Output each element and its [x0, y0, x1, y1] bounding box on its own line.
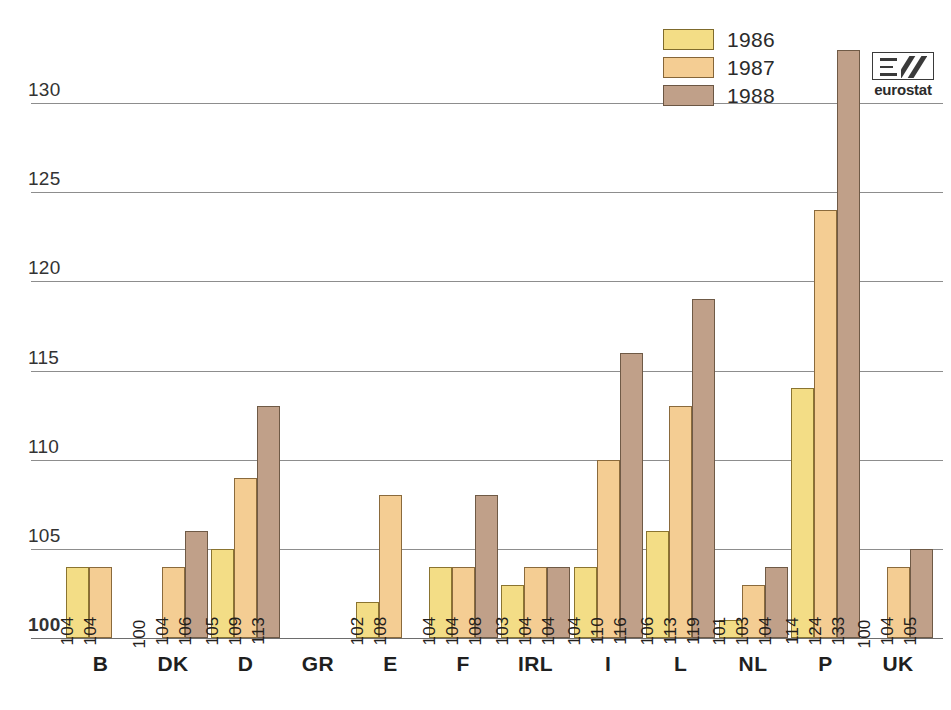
legend-label-1986: 1986 — [727, 28, 775, 52]
bar-I-1988[interactable]: 116 — [620, 353, 643, 638]
legend-label-1988: 1988 — [727, 84, 775, 108]
bar-P-1988[interactable]: 133 — [837, 50, 860, 639]
bar-value-label: 110 — [588, 617, 608, 645]
x-axis-label-UK: UK — [850, 652, 947, 676]
bar-value-label: 113 — [249, 617, 269, 645]
bar-value-label: 124 — [806, 617, 826, 646]
bar-group-P: 114124133 — [791, 50, 860, 639]
bar-value-label: 104 — [539, 617, 559, 646]
bar-group-B: 104104 — [66, 567, 112, 638]
bar-value-label: 103 — [733, 617, 753, 646]
legend-swatch-1986 — [663, 29, 714, 50]
bar-value-label: 133 — [829, 617, 849, 646]
eurostat-logo-text: eurostat — [872, 81, 934, 98]
bar-P-1987[interactable]: 124 — [814, 210, 837, 638]
bar-L-1988[interactable]: 119 — [692, 299, 715, 638]
bar-B-1987[interactable]: 104 — [89, 567, 112, 638]
bar-value-label: 104 — [420, 617, 440, 646]
bar-group-NL: 101103104 — [719, 567, 788, 638]
bar-value-label: 101 — [710, 617, 730, 646]
bar-value-label: 116 — [611, 617, 631, 645]
bar-chart: 100105110115120125130 104104B100104106DK… — [0, 0, 951, 710]
legend: 1986 1987 1988 — [663, 27, 775, 111]
bar-group-L: 106113119 — [646, 299, 715, 638]
bar-E-1987[interactable]: 108 — [379, 495, 402, 638]
bar-group-IRL: 103104104 — [501, 567, 570, 638]
bar-group-D: 105109113 — [211, 406, 280, 638]
bar-value-label: 113 — [661, 617, 681, 645]
legend-item[interactable]: 1986 — [663, 27, 775, 52]
legend-item[interactable]: 1987 — [663, 55, 775, 80]
bar-value-label: 104 — [153, 617, 173, 646]
legend-label-1987: 1987 — [727, 56, 775, 80]
bar-value-label: 109 — [226, 617, 246, 646]
bar-group-DK: 100104106 — [139, 531, 208, 638]
bar-I-1987[interactable]: 110 — [597, 460, 620, 638]
bar-group-E: 102108 — [356, 495, 402, 638]
bar-value-label: 100 — [130, 620, 150, 649]
bar-group-UK: 100104105 — [864, 549, 933, 638]
bar-value-label: 104 — [516, 617, 536, 646]
eurostat-logo: eurostat — [872, 52, 938, 98]
bar-value-label: 119 — [684, 617, 704, 645]
bar-value-label: 104 — [58, 617, 78, 646]
legend-swatch-1988 — [663, 85, 714, 106]
bar-D-1988[interactable]: 113 — [257, 406, 280, 638]
eurostat-e-icon — [880, 58, 897, 76]
bar-group-I: 104110116 — [574, 353, 643, 638]
plot-area: 104104B100104106DK105109113DGR102108E104… — [0, 0, 951, 710]
bar-value-label: 108 — [371, 617, 391, 646]
bar-value-label: 102 — [348, 617, 368, 646]
bar-group-F: 104104108 — [429, 495, 498, 638]
eurostat-logo-mark-icon — [872, 52, 934, 80]
bar-L-1987[interactable]: 113 — [669, 406, 692, 638]
bar-value-label: 104 — [878, 617, 898, 646]
bar-value-label: 114 — [783, 617, 803, 645]
bar-D-1987[interactable]: 109 — [234, 478, 257, 639]
bar-P-1986[interactable]: 114 — [791, 388, 814, 638]
legend-swatch-1987 — [663, 57, 714, 78]
bar-value-label: 108 — [466, 617, 486, 646]
bar-value-label: 105 — [901, 617, 921, 646]
bar-value-label: 104 — [443, 617, 463, 646]
bar-value-label: 106 — [176, 617, 196, 646]
bar-value-label: 106 — [638, 617, 658, 646]
bar-value-label: 105 — [203, 617, 223, 646]
bar-value-label: 100 — [855, 620, 875, 649]
bar-value-label: 104 — [565, 617, 585, 646]
bar-value-label: 104 — [756, 617, 776, 646]
bar-UK-1988[interactable]: 105 — [910, 549, 933, 638]
legend-item[interactable]: 1988 — [663, 83, 775, 108]
bar-value-label: 104 — [81, 617, 101, 646]
bar-value-label: 103 — [493, 617, 513, 646]
eurostat-slash-icon — [901, 56, 927, 78]
